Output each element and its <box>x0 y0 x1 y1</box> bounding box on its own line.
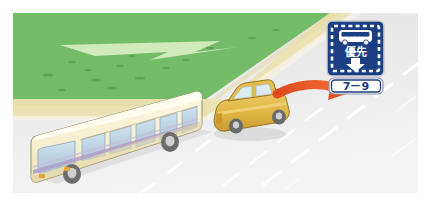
illustration-canvas: 優先 7－9 <box>0 0 430 211</box>
time-restriction-plate: 7－9 <box>329 78 383 94</box>
bus-priority-sign: 優先 <box>327 21 384 76</box>
scene-background: 優先 7－9 <box>13 13 420 193</box>
bus-light-left <box>39 174 45 178</box>
car-wheel-front-hub <box>276 112 282 119</box>
car-side-window <box>256 84 272 96</box>
car-wheel-rear-hub <box>233 121 239 128</box>
caption-strip <box>0 200 430 211</box>
road-scene-illustration: 優先 7－9 <box>0 0 430 211</box>
plate-text: 7－9 <box>343 80 369 93</box>
bus-light-right <box>64 167 70 171</box>
car-rear-panel <box>216 113 222 124</box>
sign-priority-text: 優先 <box>344 45 367 59</box>
bus-wheel-rear-hub <box>166 136 175 146</box>
